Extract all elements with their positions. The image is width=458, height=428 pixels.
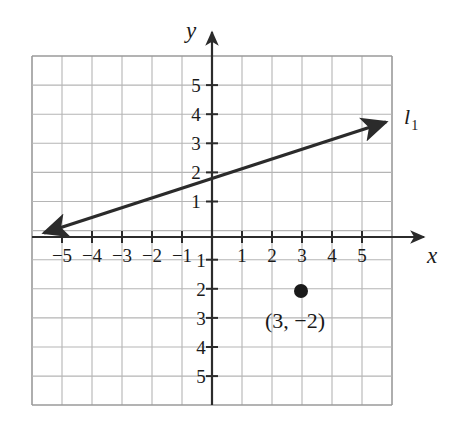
x-axis-label: x	[426, 243, 438, 268]
y-tick-label: 4	[196, 337, 206, 358]
x-tick-label: −4	[82, 245, 103, 266]
y-tick-label: 2	[196, 279, 206, 300]
line-l1	[44, 122, 386, 233]
y-tick-label: 1	[191, 191, 201, 212]
y-tick-label: 2	[191, 162, 201, 183]
y-tick-label: 5	[196, 366, 206, 387]
x-tick-label: −1	[172, 245, 192, 266]
line-label-l1: l1	[404, 104, 418, 133]
x-tick-label: 4	[327, 245, 337, 266]
y-tick-label: 4	[191, 104, 201, 125]
line-label-base: l	[404, 104, 410, 129]
x-tick-label: 1	[237, 245, 247, 266]
x-tick-label: −5	[52, 245, 72, 266]
x-tick-label: −2	[142, 245, 162, 266]
y-tick-label: 5	[191, 75, 201, 96]
coordinate-plane-figure: y x l1 −5 −4 −3 −2 −1 1 2 3 4 5 5 4 3 2 …	[0, 0, 458, 428]
plotted-point-label: (3, −2)	[265, 308, 325, 333]
x-axis	[32, 231, 424, 243]
graph-canvas: y x l1 −5 −4 −3 −2 −1 1 2 3 4 5 5 4 3 2 …	[0, 0, 458, 428]
line-label-subscript: 1	[411, 118, 418, 133]
plotted-point-marker	[294, 284, 308, 298]
x-tick-label: 3	[297, 245, 307, 266]
y-axis	[206, 32, 218, 405]
line-l1-segment	[44, 122, 386, 233]
y-axis-label: y	[184, 18, 197, 43]
x-tick-label: −3	[112, 245, 132, 266]
x-tick-label: 5	[357, 245, 367, 266]
y-tick-label: 3	[191, 133, 201, 154]
y-tick-label: 3	[196, 308, 206, 329]
x-tick-label: 2	[267, 245, 277, 266]
y-tick-label: 1	[196, 250, 206, 271]
